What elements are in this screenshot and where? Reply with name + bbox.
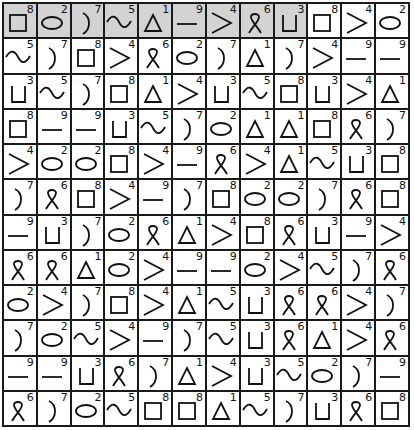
grid-cell: 9 <box>72 110 106 145</box>
ribbon-icon <box>345 188 367 210</box>
cell-number: 6 <box>365 110 372 122</box>
cell-number: 5 <box>27 39 34 51</box>
cell-number: 6 <box>128 357 135 369</box>
grid-cell: 1 <box>241 110 275 145</box>
grid-cell: 3 <box>342 145 376 180</box>
cell-number: 1 <box>196 286 203 298</box>
cell-number: 8 <box>94 180 101 192</box>
cup-icon <box>311 224 333 246</box>
grid-cell: 8 <box>105 145 139 180</box>
cell-number: 2 <box>61 321 68 333</box>
grid-cell: 7 <box>275 392 309 427</box>
cell-number: 8 <box>399 145 406 157</box>
triangle-icon <box>311 329 333 351</box>
grid-cell: 5 <box>207 321 241 356</box>
grid-cell: 8 <box>4 110 38 145</box>
cell-number: 4 <box>128 39 135 51</box>
grid-cell: 4 <box>376 216 410 251</box>
grid-cell: 7 <box>38 392 72 427</box>
paren-icon <box>75 224 97 246</box>
paren-icon <box>75 12 97 34</box>
cell-number: 5 <box>230 321 237 333</box>
grid-cell: 5 <box>207 286 241 321</box>
grid-cell: 8 <box>308 110 342 145</box>
triangle-icon <box>244 47 266 69</box>
square-icon <box>311 118 333 140</box>
cell-number: 2 <box>94 392 101 404</box>
greater-than-icon <box>7 153 29 175</box>
cell-number: 5 <box>264 392 271 404</box>
key-cell: 8 <box>4 4 38 39</box>
greater-than-icon <box>345 329 367 351</box>
cell-number: 3 <box>331 392 338 404</box>
cell-number: 3 <box>331 75 338 87</box>
ribbon-icon <box>41 188 63 210</box>
grid-cell: 6 <box>275 321 309 356</box>
cell-number: 6 <box>399 251 406 263</box>
cell-number: 7 <box>94 216 101 228</box>
dash-icon <box>41 118 63 140</box>
cup-icon <box>108 118 130 140</box>
cell-number: 9 <box>162 321 169 333</box>
grid-cell: 4 <box>38 286 72 321</box>
square-icon <box>244 224 266 246</box>
paren-icon <box>75 83 97 105</box>
cell-number: 9 <box>230 251 237 263</box>
dash-icon <box>41 365 63 387</box>
cell-number: 3 <box>264 321 271 333</box>
grid-cell: 6 <box>4 251 38 286</box>
paren-icon <box>278 47 300 69</box>
dash-icon <box>210 259 232 281</box>
cup-icon <box>75 365 97 387</box>
cell-number: 2 <box>196 39 203 51</box>
cell-number: 8 <box>27 110 34 122</box>
key-cell: 2 <box>38 4 72 39</box>
grid-cell: 1 <box>173 357 207 392</box>
square-icon <box>210 188 232 210</box>
grid-cell: 1 <box>139 75 173 110</box>
cell-number: 3 <box>94 357 101 369</box>
grid-cell: 2 <box>173 39 207 74</box>
grid-cell: 5 <box>72 321 106 356</box>
cell-number: 2 <box>27 286 34 298</box>
square-icon <box>379 153 401 175</box>
grid-cell: 6 <box>342 180 376 215</box>
dash-icon <box>7 224 29 246</box>
cell-number: 3 <box>264 286 271 298</box>
grid-cell: 6 <box>207 145 241 180</box>
cell-number: 7 <box>196 321 203 333</box>
cell-number: 7 <box>94 286 101 298</box>
cell-number: 6 <box>297 321 304 333</box>
grid-cell: 8 <box>105 286 139 321</box>
cell-number: 9 <box>196 145 203 157</box>
grid-cell: 4 <box>139 286 173 321</box>
cell-number: 4 <box>61 286 68 298</box>
key-cell: 1 <box>139 4 173 39</box>
cell-number: 7 <box>196 180 203 192</box>
grid-cell: 2 <box>72 392 106 427</box>
cell-number: 7 <box>365 357 372 369</box>
paren-icon <box>142 365 164 387</box>
cell-number: 9 <box>196 251 203 263</box>
ellipse-icon <box>244 188 266 210</box>
paren-icon <box>379 118 401 140</box>
grid-cell: 3 <box>4 75 38 110</box>
key-cell: 3 <box>275 4 309 39</box>
triangle-icon <box>142 83 164 105</box>
dash-icon <box>142 188 164 210</box>
cell-number: 7 <box>297 39 304 51</box>
ribbon-icon <box>345 118 367 140</box>
grid-cell: 8 <box>139 392 173 427</box>
cell-number: 5 <box>297 357 304 369</box>
cell-number: 2 <box>128 216 135 228</box>
grid-cell: 3 <box>207 75 241 110</box>
grid-cell: 9 <box>342 39 376 74</box>
grid-cell: 4 <box>105 180 139 215</box>
wave-icon <box>142 118 164 140</box>
cell-number: 7 <box>61 39 68 51</box>
greater-than-icon <box>379 224 401 246</box>
cell-number: 2 <box>94 145 101 157</box>
cell-number: 5 <box>162 110 169 122</box>
square-icon <box>108 83 130 105</box>
grid-cell: 7 <box>376 110 410 145</box>
